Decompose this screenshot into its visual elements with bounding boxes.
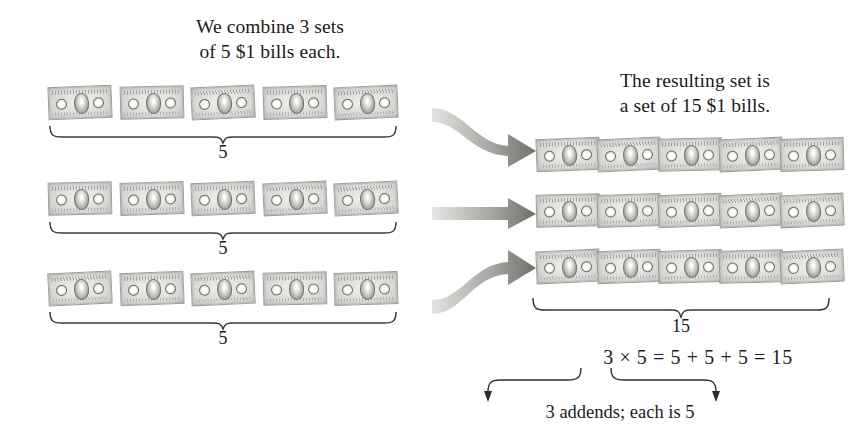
dollar-bill-icon — [596, 136, 662, 172]
dollar-bill-icon — [657, 193, 722, 228]
dollar-bill-icon — [333, 85, 398, 121]
dollar-bill-icon — [535, 137, 600, 172]
right-group-brace-label: 15 — [531, 316, 831, 337]
dollar-bill-icon — [535, 249, 600, 285]
left-row-3 — [48, 272, 398, 305]
dollar-bill-icon — [190, 271, 255, 307]
annotation-text: 3 addends; each is 5 — [470, 402, 770, 423]
left-row-3-brace-label: 5 — [73, 328, 373, 349]
dollar-bill-icon — [190, 181, 255, 216]
dollar-bill-icon — [119, 181, 184, 216]
thick-arrow-icon — [432, 104, 542, 176]
dollar-bill-icon — [47, 85, 112, 120]
dollar-bill-icon — [47, 270, 113, 306]
elbow-arrow-icon — [478, 366, 588, 406]
dollar-bill-icon — [779, 193, 844, 229]
dollar-bill-icon — [333, 180, 399, 216]
right-row-3 — [536, 250, 841, 283]
left-row-2 — [48, 182, 398, 215]
dollar-bill-icon — [262, 85, 327, 120]
dollar-bill-icon — [48, 181, 113, 216]
dollar-bill-icon — [119, 271, 184, 306]
dollar-bill-icon — [657, 249, 722, 284]
dollar-bill-icon — [190, 84, 256, 120]
dollar-bill-icon — [119, 85, 184, 120]
dollar-bill-icon — [262, 271, 327, 306]
dollar-bill-icon — [333, 271, 398, 306]
dollar-bill-icon — [779, 248, 845, 284]
curly-brace-icon — [48, 220, 398, 240]
curly-brace-icon — [48, 310, 398, 330]
curly-brace-icon — [531, 296, 831, 318]
left-row-2-brace-label: 5 — [73, 238, 373, 259]
dollar-bill-icon — [596, 193, 661, 228]
thick-arrow-icon — [432, 198, 542, 230]
elbow-arrow-icon — [608, 366, 728, 406]
right-row-2 — [536, 194, 841, 227]
dollar-bill-icon — [719, 249, 784, 284]
thick-arrow-icon — [432, 244, 542, 318]
left-row-1 — [48, 86, 398, 119]
right-row-1 — [536, 138, 841, 171]
diagram-canvas: We combine 3 sets of 5 $1 bills each. Th… — [0, 0, 861, 440]
left-caption: We combine 3 sets of 5 $1 bills each. — [120, 14, 420, 65]
dollar-bill-icon — [262, 181, 327, 217]
right-caption: The resulting set is a set of 15 $1 bill… — [545, 68, 845, 119]
dollar-bill-icon — [536, 193, 601, 228]
dollar-bill-icon — [718, 192, 784, 228]
dollar-bill-icon — [718, 137, 783, 173]
dollar-bill-icon — [779, 137, 844, 172]
dollar-bill-icon — [658, 137, 723, 172]
left-row-1-brace-label: 5 — [73, 142, 373, 163]
dollar-bill-icon — [596, 249, 661, 284]
curly-brace-icon — [48, 124, 398, 144]
